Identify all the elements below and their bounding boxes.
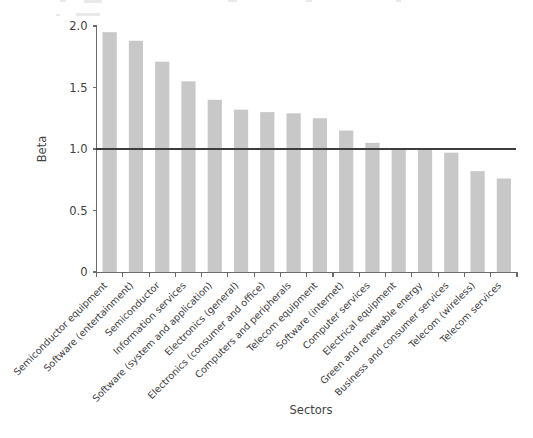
scan-artifacts <box>56 0 401 16</box>
beta-by-sector-bar-chart: 00.51.01.52.0 Beta Sectors Semiconductor… <box>0 0 533 438</box>
bar-series <box>103 32 511 272</box>
x-axis-title: Sectors <box>290 403 333 417</box>
bar <box>234 110 248 272</box>
bar <box>208 100 222 272</box>
chart-canvas: 00.51.01.52.0 Beta Sectors Semiconductor… <box>0 0 533 438</box>
y-tick-label: 0.5 <box>69 204 87 218</box>
bar <box>181 81 195 272</box>
y-tick-label: 2.0 <box>69 19 87 33</box>
bar <box>497 179 511 272</box>
bar <box>313 118 327 272</box>
y-tick-label: 1.5 <box>69 81 87 95</box>
y-tick-label: 0 <box>80 265 87 279</box>
bar <box>339 131 353 272</box>
bar <box>470 171 484 272</box>
y-tick-label: 1.0 <box>69 142 87 156</box>
y-axis-title: Beta <box>35 136 49 163</box>
bar <box>287 113 301 272</box>
y-axis: 00.51.01.52.0 Beta <box>35 19 97 279</box>
bar <box>260 112 274 272</box>
bar <box>392 149 406 272</box>
bar <box>103 32 117 272</box>
bar <box>155 62 169 272</box>
x-category-labels: Semiconductor equipmentSoftware (enterta… <box>11 279 503 403</box>
bar <box>365 143 379 272</box>
y-tick-group: 00.51.01.52.0 <box>69 19 96 279</box>
x-category-label: Semiconductor equipment <box>11 279 109 377</box>
bar <box>444 153 458 272</box>
bar <box>418 149 432 272</box>
bar <box>129 41 143 272</box>
